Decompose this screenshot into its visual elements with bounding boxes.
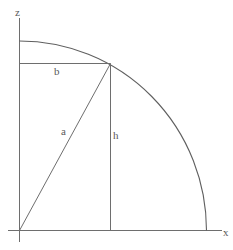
- geometry-figure: z x b a h: [0, 0, 233, 250]
- segment-h-label: h: [113, 130, 119, 141]
- z-axis-label: z: [15, 7, 20, 18]
- segment-a-label: a: [61, 126, 66, 137]
- figure-canvas: [0, 0, 233, 250]
- segment-b-label: b: [54, 66, 60, 77]
- x-axis-label: x: [223, 227, 229, 238]
- segment-a-line: [20, 64, 111, 231]
